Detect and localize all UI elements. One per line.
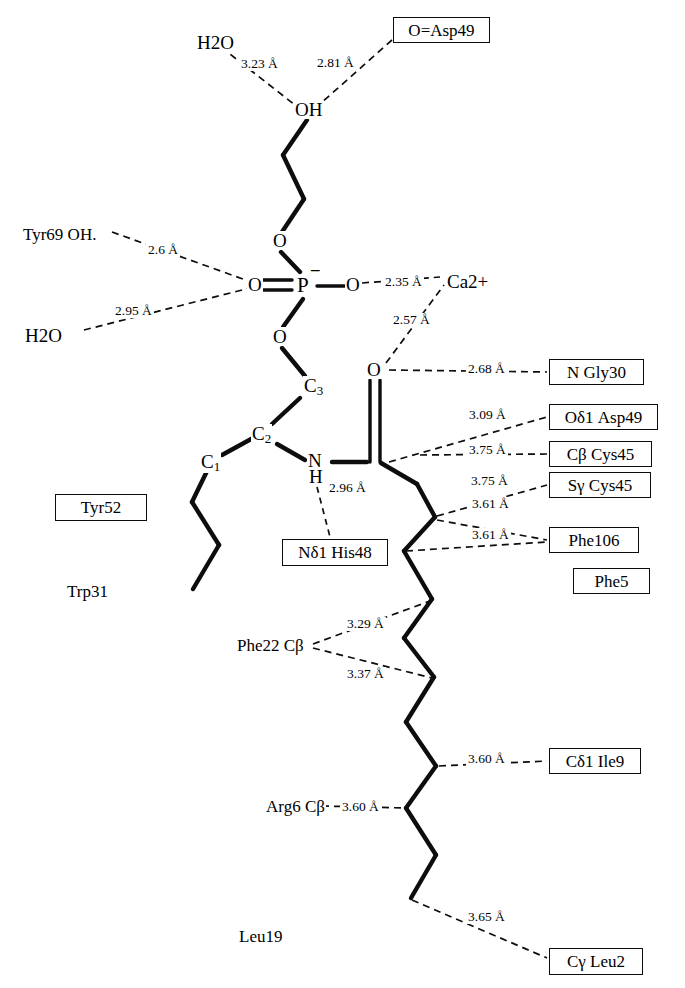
distance-asp49-oh: 2.81 Å [315,56,356,70]
boxed-label-cy-leu2[interactable]: Cγ Leu2 [549,948,643,975]
label-trp31: Trp31 [66,583,109,600]
atom-label-h-amide: H [308,467,324,486]
distance-gly30: 2.68 Å [466,362,507,376]
distance-po-ca: 2.35 Å [383,275,424,289]
boxed-label-cd1-ile9[interactable]: Cδ1 Ile9 [549,748,641,774]
atom-label-o-bridge-right: O [345,275,361,294]
distance-phe106-a: 3.61 Å [470,497,511,511]
atom-label-o-ester-lower: O [272,327,288,346]
boxed-label-nd1-his48[interactable]: Nδ1 His48 [282,539,388,566]
boxed-label-cb-cys45[interactable]: Cβ Cys45 [549,441,652,467]
bond-sn2-7 [406,722,436,766]
boxed-label-phe106[interactable]: Phe106 [549,527,639,553]
carbonyl-group [370,380,417,484]
bond-sn2-10 [411,855,436,898]
bond-sn2-1 [417,484,435,517]
contact-water-po [84,287,254,330]
distance-cys45-cb: 3.75 Å [467,443,508,457]
atom-label-c1: C1 [200,452,221,473]
label-phe22-cb: Phe22 Cβ [236,637,305,654]
bond-carbonyl-ch2 [381,463,417,484]
bond-sn1-3 [193,545,219,589]
distance-leu2: 3.65 Å [466,910,507,924]
sn2-chain-bonds [404,484,436,898]
distance-phe106-b: 3.61 Å [470,528,511,542]
label-tyr69-oh: Tyr69 OH. [22,226,97,243]
distance-his48: 2.96 Å [327,481,368,495]
sn1-chain-bonds [192,469,219,589]
contact-asp49-oh [320,40,392,104]
distance-ile9: 3.60 Å [466,752,507,766]
distance-phe22-a: 3.29 Å [345,617,386,631]
bond-sn2-8 [406,766,436,808]
atom-label-o-carbonyl: O [366,360,382,379]
bond-sn1-1 [192,469,208,502]
boxed-label-phe5[interactable]: Phe5 [573,568,650,594]
bond-c-o-head [282,199,304,232]
interaction-diagram: OH O P – O O O C3 C2 C1 N H O H2O Tyr69 … [0,0,685,988]
boxed-label-sg-cys45[interactable]: Sγ Cys45 [549,472,651,498]
distance-water-po: 2.95 Å [113,304,154,318]
distance-tyr69-po: 2.6 Å [146,243,180,257]
contact-chain-phe106-b [406,542,547,551]
bond-sn2-6 [406,677,434,722]
distance-phe22-b: 3.37 Å [345,667,386,681]
bond-sn2-5 [404,638,434,677]
bond-o-c3 [282,348,305,376]
bond-oh-c [283,120,307,155]
distance-water-oh: 3.23 Å [239,57,280,71]
bond-o-p-upper [281,252,300,272]
boxed-label-n-gly30[interactable]: N Gly30 [549,359,644,385]
atom-label-o-double-left: O [247,275,263,294]
atom-label-o-ester-upper: O [272,231,288,250]
bond-p-o-lower [283,299,303,327]
atom-label-c2: C2 [251,424,272,445]
bond-sn2-2 [404,517,435,551]
boxed-label-od1-asp49[interactable]: Oδ1 Asp49 [549,404,658,430]
label-leu19: Leu19 [238,928,283,945]
bond-sn2-3 [404,551,432,599]
label-arg6-cb: Arg6 Cβ [265,798,326,815]
boxed-label-tyr52[interactable]: Tyr52 [55,494,147,521]
contact-tyr69-po [112,232,254,283]
boxed-label-o-asp49[interactable]: O=Asp49 [393,17,490,43]
phosphate-negative-charge: – [311,261,320,278]
backbone-bonds [222,398,367,462]
bond-sn2-9 [406,808,436,855]
bond-c-c-head [283,155,304,199]
distance-arg6: 3.60 Å [340,800,381,814]
bond-c2-c1 [222,438,253,455]
atom-label-oh: OH [294,100,323,119]
distance-carbonyl-ca: 2.57 Å [391,313,432,327]
label-calcium-ion: Ca2+ [446,272,489,291]
atom-label-c3: C3 [303,376,324,397]
bond-c3-c2 [272,398,300,424]
distance-cys45-sg: 3.75 Å [469,474,510,488]
label-water-left: H2O [24,326,63,345]
bond-sn1-2 [192,502,219,545]
distance-asp49-od1: 3.09 Å [467,408,508,422]
atom-label-phosphorus: P [296,275,310,296]
bond-c2-n [277,444,305,460]
label-water-top: H2O [196,33,235,52]
